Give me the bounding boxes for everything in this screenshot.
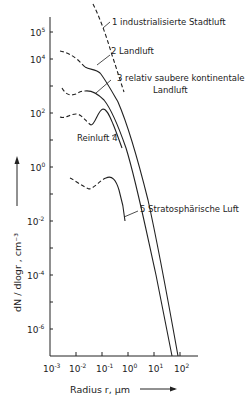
y-tick-label: 105 [30,26,45,38]
curve-3-clean-continental-air-dashed [62,88,85,95]
x-axis-ticks [76,352,180,356]
curve-labels: 1 industrialisierte Stadtluft 2 Landluft… [77,17,245,214]
label-curve-1: 1 industrialisierte Stadtluft [112,17,226,27]
y-tick-label: 104 [30,53,45,65]
x-tick-label: 10-2 [69,362,87,374]
x-axis-title: Radius r, µm [70,384,130,395]
x-tick-label: 10-3 [43,362,61,374]
curve-4-clean-air-dashed [60,114,91,125]
x-tick-label: 102 [174,362,189,374]
aerosol-size-distribution-chart: 105 104 102 100 10-2 10-4 10-6 10-3 10-2… [0,0,248,404]
y-tick-label: 10-2 [27,215,45,227]
label-curve-4: Reinluft 4 [77,133,118,143]
label-curve-3-line1: 3 relativ saubere kontinentale [117,73,245,83]
x-tick-label: 100 [122,362,137,374]
x-tick-label: 101 [148,362,163,374]
y-tick-label: 100 [30,161,45,173]
label-curve-3-line2: Landluft [153,85,188,95]
y-tick-label: 102 [30,107,45,119]
x-tick-labels: 10-3 10-2 10-1 100 101 102 [43,362,189,374]
y-axis-arrow [15,156,20,206]
label-curve-2: 2 Landluft [111,46,154,56]
y-axis-title: dN / dlogr , cm⁻³ [12,233,23,312]
y-tick-labels: 105 104 102 100 10-2 10-4 10-6 [27,26,45,335]
label-curve-5: 5 Stratosphärische Luft [140,204,240,214]
curve-2-rural-air-dashed [60,51,85,67]
x-tick-label: 10-1 [96,362,114,374]
x-axis-arrow [140,387,177,392]
y-tick-label: 10-6 [27,323,45,335]
curve-5-stratospheric-air-dashed [70,178,106,189]
axes [50,17,198,356]
y-tick-label: 10-4 [27,269,45,281]
curve-5-stratospheric-air-solid [106,177,125,221]
